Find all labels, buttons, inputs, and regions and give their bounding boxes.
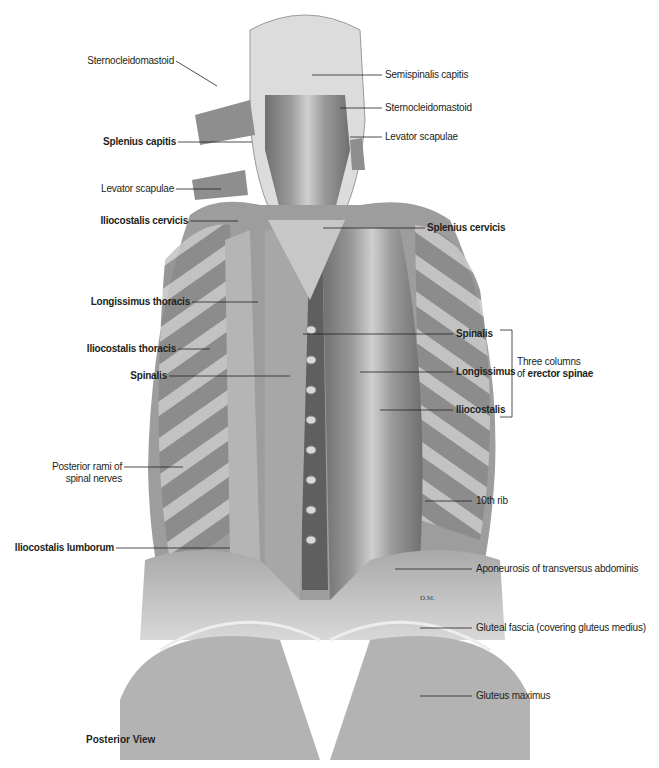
label-iliocostalis-lumborum: Iliocostalis lumborum [0,542,114,554]
label-semispinalis-capitis: Semispinalis capitis [385,69,468,81]
label-levator-scapulae-left: Levator scapulae [64,183,174,195]
label-longissimus-thoracis: Longissimus thoracis [40,296,190,308]
head-neck [192,15,365,230]
label-posterior-rami-line1: Posterior rami of [20,461,122,473]
group-label-line1: Three columns [517,356,593,368]
label-iliocostalis-cervicis: Iliocostalis cervicis [40,215,188,227]
label-spinalis-right: Spinalis [456,328,493,340]
label-splenius-capitis: Splenius capitis [60,136,176,148]
label-spinalis-left: Spinalis [60,370,167,382]
group-label-line2: of erector spinae [517,368,593,380]
label-iliocostalis: Iliocostalis [456,404,505,416]
label-splenius-cervicis: Splenius cervicis [427,222,505,234]
group-label-prefix: of [517,368,528,379]
label-levator-scapulae-right: Levator scapulae [385,131,458,143]
label-gluteal-fascia: Gluteal fascia (covering gluteus medius) [476,622,646,634]
view-caption: Posterior View [86,734,155,745]
label-gluteus-maximus: Gluteus maximus [476,690,550,702]
label-posterior-rami: Posterior rami of spinal nerves [20,461,122,485]
label-aponeurosis: Aponeurosis of transversus abdominis [476,563,638,575]
svg-text:D.M.: D.M. [420,594,435,602]
label-posterior-rami-line2: spinal nerves [20,473,122,485]
label-sternocleidomastoid-left: Sternocleidomastoid [64,55,174,67]
label-iliocostalis-thoracis: Iliocostalis thoracis [30,343,176,355]
label-sternocleidomastoid-right: Sternocleidomastoid [385,102,472,114]
erector-spinae-group-label: Three columns of erector spinae [517,356,593,380]
anatomy-illustration: D.M. [0,0,659,768]
label-tenth-rib: 10th rib [476,495,508,507]
group-label-bold: erector spinae [528,368,594,379]
label-longissimus: Longissimus [456,366,515,378]
